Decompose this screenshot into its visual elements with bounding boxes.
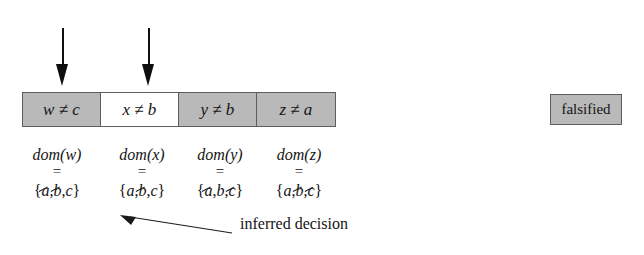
falsified-legend-box: falsified (550, 94, 622, 125)
domain-label: dom(w) (14, 146, 100, 164)
equals-sign: = (256, 165, 342, 177)
domain-label: dom(x) (99, 146, 185, 164)
domain-set: {a,b,c} (14, 181, 100, 200)
domain-set: {a,b,c} (99, 181, 185, 200)
falsified-label: falsified (561, 101, 610, 118)
equals-sign: = (14, 165, 100, 177)
constraint-cell-3[interactable]: y≠b (179, 93, 257, 126)
set-element: a (126, 181, 134, 200)
constraint-var: w (43, 101, 55, 118)
constraint-row: w≠c x≠b y≠b z≠a (22, 92, 336, 127)
constraint-var: x (123, 101, 131, 118)
constraint-var: y (201, 101, 209, 118)
constraint-val: c (72, 101, 80, 118)
set-element-struck: b (138, 181, 146, 200)
equals-sign: = (177, 165, 263, 177)
set-element: c (150, 181, 157, 200)
constraint-val: b (226, 101, 235, 118)
constraint-cell-2[interactable]: x≠b (101, 93, 179, 126)
constraint-cell-1[interactable]: w≠c (23, 93, 101, 126)
set-element-struck: b (53, 181, 61, 200)
annotation-label: inferred decision (240, 215, 348, 233)
set-element-struck: b (295, 181, 303, 200)
constraint-val: b (148, 101, 157, 118)
not-equal-icon: ≠ (286, 101, 304, 118)
set-open-brace: { (119, 182, 127, 199)
domain-set: {a,b,c} (177, 181, 263, 200)
set-element-struck: a (41, 181, 49, 200)
domain-column-x: dom(x) = {a,b,c} (99, 146, 185, 201)
set-open-brace: { (276, 182, 284, 199)
down-arrow-icon-1 (56, 28, 70, 86)
not-equal-icon: ≠ (130, 101, 148, 118)
set-element: b (216, 181, 224, 200)
set-close-brace: } (315, 182, 323, 199)
set-element: a (283, 181, 291, 200)
down-arrow-icon-2 (142, 28, 156, 86)
set-close-brace: } (236, 182, 244, 199)
constraint-cell-4[interactable]: z≠a (257, 93, 335, 126)
arrow-shaft (148, 28, 150, 68)
set-element-struck: c (228, 181, 235, 200)
arrow-head (142, 64, 154, 86)
not-equal-icon: ≠ (208, 101, 226, 118)
domain-label: dom(z) (256, 146, 342, 164)
set-close-brace: } (73, 182, 81, 199)
set-element-struck: c (307, 181, 314, 200)
constraint-val: a (304, 101, 313, 118)
arrow-head (56, 64, 68, 86)
domain-column-w: dom(w) = {a,b,c} (14, 146, 100, 201)
arrow-shaft (62, 28, 64, 68)
domain-column-z: dom(z) = {a,b,c} (256, 146, 342, 201)
figure-canvas: w≠c x≠b y≠b z≠a falsified dom(w) = {a,b,… (0, 0, 644, 255)
set-close-brace: } (158, 182, 166, 199)
equals-sign: = (99, 165, 185, 177)
not-equal-icon: ≠ (55, 101, 73, 118)
annotation-arrow-icon (118, 213, 234, 235)
set-element-struck: a (204, 181, 212, 200)
domain-column-y: dom(y) = {a,b,c} (177, 146, 263, 201)
set-element: c (65, 181, 72, 200)
domain-label: dom(y) (177, 146, 263, 164)
domain-set: {a,b,c} (256, 181, 342, 200)
constraint-var: z (279, 101, 286, 118)
